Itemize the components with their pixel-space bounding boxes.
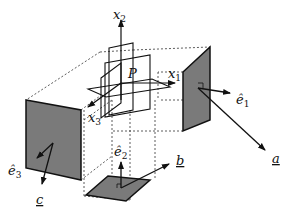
x2-label: x2 bbox=[113, 7, 126, 24]
left-face bbox=[26, 100, 81, 180]
bottom-face bbox=[86, 176, 150, 201]
e1-label: ê1 bbox=[236, 92, 249, 109]
vector-a-label: a bbox=[272, 151, 280, 166]
stress-element-diagram: x2 x1 x3 P ê1 a ê2 b ê3 c bbox=[0, 0, 292, 219]
e2-label: ê2 bbox=[114, 144, 127, 161]
e3-label: ê3 bbox=[8, 163, 22, 180]
point-p-label: P bbox=[127, 66, 137, 81]
x3-label: x3 bbox=[88, 110, 101, 127]
vector-c-label: c bbox=[36, 192, 44, 207]
x1-label: x1 bbox=[168, 66, 181, 83]
vector-b-label: b bbox=[176, 153, 184, 168]
